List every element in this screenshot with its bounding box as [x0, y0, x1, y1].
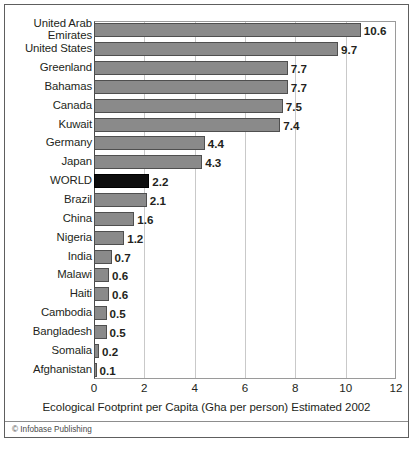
category-label: Germany	[0, 138, 92, 150]
bar[interactable]	[94, 231, 124, 245]
category-label: China	[0, 213, 92, 225]
bar-value-label: 0.1	[100, 363, 116, 376]
bar[interactable]	[94, 155, 202, 169]
bar-row[interactable]: Malawi0.6	[5, 266, 410, 285]
category-label: Canada	[0, 100, 92, 112]
bar-row[interactable]: WORLD2.2	[5, 172, 410, 191]
bar-row[interactable]: Greenland7.7	[5, 59, 410, 78]
x-tick-label: 4	[191, 381, 197, 394]
bar-value-label: 0.6	[112, 269, 128, 282]
category-label: Kuwait	[0, 119, 92, 131]
bar-value-label: 0.5	[110, 325, 126, 338]
x-tick-label: 10	[339, 381, 352, 394]
bar-row[interactable]: Bahamas7.7	[5, 78, 410, 97]
bar-row[interactable]: Brazil2.1	[5, 191, 410, 210]
x-axis-ticks: 024681012	[5, 381, 410, 397]
category-label: Afghanistan	[0, 364, 92, 376]
bar[interactable]	[94, 344, 99, 358]
bar-value-label: 4.4	[208, 137, 224, 150]
publisher-credit: © Infobase Publishing	[12, 425, 92, 434]
bar-value-label: 0.6	[112, 288, 128, 301]
bar-row[interactable]: Japan4.3	[5, 153, 410, 172]
bar-row[interactable]: Cambodia0.5	[5, 304, 410, 323]
bar-value-label: 10.6	[364, 24, 387, 37]
bar[interactable]	[94, 250, 112, 264]
bar[interactable]	[94, 212, 134, 226]
category-label: Japan	[0, 157, 92, 169]
bar[interactable]	[94, 118, 280, 132]
category-label: United Arab Emirates	[0, 19, 92, 42]
bar[interactable]	[94, 306, 107, 320]
bar-value-label: 2.2	[152, 175, 168, 188]
bar[interactable]	[94, 174, 149, 188]
bar-row[interactable]: Kuwait7.4	[5, 115, 410, 134]
bar-row[interactable]: Germany4.4	[5, 134, 410, 153]
bar[interactable]	[94, 61, 288, 75]
bar-rows: United Arab Emirates10.6United States9.7…	[5, 21, 410, 379]
bar-row[interactable]: India0.7	[5, 247, 410, 266]
x-tick-label: 0	[91, 381, 97, 394]
bar-value-label: 2.1	[150, 193, 166, 206]
bar[interactable]	[94, 136, 205, 150]
bar[interactable]	[94, 287, 109, 301]
bar[interactable]	[94, 268, 109, 282]
bar-value-label: 9.7	[341, 43, 357, 56]
bar-value-label: 1.6	[137, 212, 153, 225]
bar[interactable]	[94, 23, 361, 37]
category-label: Nigeria	[0, 232, 92, 244]
x-tick-label: 12	[390, 381, 403, 394]
bar-value-label: 0.2	[102, 344, 118, 357]
category-label: Bahamas	[0, 81, 92, 93]
bar-row[interactable]: Afghanistan0.1	[5, 360, 410, 379]
bar-row[interactable]: Somalia0.2	[5, 341, 410, 360]
category-label: Somalia	[0, 345, 92, 357]
credit-divider	[5, 421, 408, 422]
bar[interactable]	[94, 193, 147, 207]
bar[interactable]	[94, 99, 283, 113]
category-label: Bangladesh	[0, 326, 92, 338]
bar-value-label: 0.5	[110, 307, 126, 320]
bar[interactable]	[94, 363, 97, 377]
x-tick-label: 2	[141, 381, 147, 394]
bar-value-label: 7.5	[286, 99, 302, 112]
x-axis-title: Ecological Footprint per Capita (Gha per…	[5, 401, 408, 413]
bar[interactable]	[94, 42, 338, 56]
bar-row[interactable]: Haiti0.6	[5, 285, 410, 304]
category-label: India	[0, 251, 92, 263]
category-label: United States	[0, 43, 92, 55]
bar-row[interactable]: China1.6	[5, 209, 410, 228]
plot-wrapper: United Arab Emirates10.6United States9.7…	[5, 5, 408, 437]
category-label: Greenland	[0, 62, 92, 74]
bar-value-label: 7.7	[291, 80, 307, 93]
bar-row[interactable]: United States9.7	[5, 40, 410, 59]
category-label: Haiti	[0, 288, 92, 300]
category-label: Brazil	[0, 194, 92, 206]
bar[interactable]	[94, 80, 288, 94]
bar-value-label: 7.7	[291, 62, 307, 75]
bar-value-label: 7.4	[283, 118, 299, 131]
bar-row[interactable]: Bangladesh0.5	[5, 322, 410, 341]
bar-row[interactable]: Canada7.5	[5, 96, 410, 115]
x-tick-label: 6	[242, 381, 248, 394]
category-label: WORLD	[0, 175, 92, 187]
bar-row[interactable]: Nigeria1.2	[5, 228, 410, 247]
x-tick-label: 8	[292, 381, 298, 394]
category-label: Cambodia	[0, 307, 92, 319]
category-label: Malawi	[0, 270, 92, 282]
bar-value-label: 1.2	[127, 231, 143, 244]
bar-row[interactable]: United Arab Emirates10.6	[5, 21, 410, 40]
chart-figure: United Arab Emirates10.6United States9.7…	[4, 4, 409, 438]
bar-value-label: 4.3	[205, 156, 221, 169]
bar[interactable]	[94, 325, 107, 339]
bar-value-label: 0.7	[115, 250, 131, 263]
